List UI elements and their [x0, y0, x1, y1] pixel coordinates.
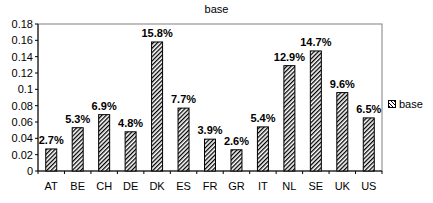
bar-value-label: 6.9% — [92, 100, 117, 112]
x-tick-label: DK — [149, 180, 165, 192]
bar-value-label: 2.6% — [224, 135, 249, 147]
legend: base — [388, 98, 423, 110]
y-tick-label: 0.14 — [12, 51, 33, 63]
bar-value-label: 2.7% — [39, 134, 64, 146]
bar-value-label: 6.5% — [356, 103, 381, 115]
x-tick-label: NL — [282, 180, 296, 192]
bar — [284, 66, 295, 171]
bar-value-label: 5.4% — [250, 112, 275, 124]
x-tick-label: IT — [258, 180, 268, 192]
x-tick-label: FR — [203, 180, 218, 192]
y-tick-label: 0.02 — [12, 149, 33, 161]
bar-value-label: 9.6% — [330, 78, 355, 90]
bar — [205, 139, 216, 171]
bar — [257, 127, 268, 171]
bar-value-label: 4.8% — [118, 117, 143, 129]
x-tick-label: AT — [45, 180, 59, 192]
bar — [337, 93, 348, 171]
bar-chart: 00.020.040.060.080.10.120.140.160.182.7%… — [0, 0, 433, 203]
bar — [231, 150, 242, 171]
bar — [152, 42, 163, 171]
x-tick-label: US — [361, 180, 376, 192]
x-tick-label: CH — [96, 180, 112, 192]
y-tick-label: 0.12 — [12, 67, 33, 79]
y-tick-label: 0.08 — [12, 100, 33, 112]
bar — [99, 115, 110, 171]
y-tick-label: 0.06 — [12, 116, 33, 128]
y-tick-label: 0 — [27, 165, 33, 177]
bar — [72, 128, 83, 171]
bar — [178, 108, 189, 171]
legend-swatch-icon — [388, 100, 396, 108]
bar — [46, 149, 57, 171]
y-tick-label: 0.1 — [18, 83, 33, 95]
bar-value-label: 12.9% — [274, 51, 305, 63]
bar-value-label: 3.9% — [197, 124, 222, 136]
x-tick-label: ES — [176, 180, 191, 192]
x-tick-label: GR — [228, 180, 245, 192]
y-tick-label: 0.18 — [12, 18, 33, 30]
bar-value-label: 5.3% — [65, 113, 90, 125]
x-tick-label: UK — [335, 180, 351, 192]
x-tick-label: BE — [70, 180, 85, 192]
bar — [363, 118, 374, 171]
x-tick-label: DE — [123, 180, 138, 192]
bar-value-label: 7.7% — [171, 93, 196, 105]
x-tick-label: SE — [309, 180, 324, 192]
bar — [125, 132, 136, 171]
bar-value-label: 14.7% — [300, 36, 331, 48]
y-tick-label: 0.16 — [12, 34, 33, 46]
legend-label: base — [399, 98, 423, 110]
bar — [310, 51, 321, 171]
y-tick-label: 0.04 — [12, 132, 33, 144]
bar-value-label: 15.8% — [141, 27, 172, 39]
